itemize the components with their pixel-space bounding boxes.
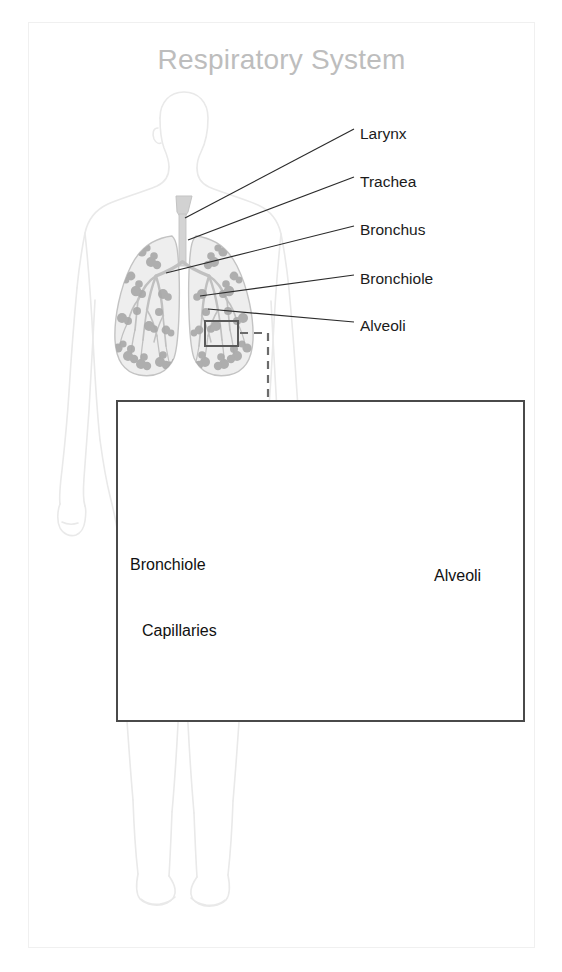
callout-label-bronchiole: Bronchiole (360, 271, 433, 287)
callout-label-bronchus: Bronchus (360, 222, 425, 238)
callout-label-trachea: Trachea (360, 174, 416, 190)
detail-label-alveoli: Alveoli (434, 568, 481, 584)
detail-label-bronchiole: Bronchiole (130, 557, 206, 573)
respiratory-system-figure: Respiratory System (0, 0, 562, 972)
trachea-shape (179, 214, 186, 266)
leader-trachea (188, 177, 354, 240)
callout-label-alveoli: Alveoli (360, 318, 406, 334)
detail-label-capillaries: Capillaries (142, 623, 217, 639)
callout-label-larynx: Larynx (360, 126, 407, 142)
leader-larynx (185, 129, 354, 218)
